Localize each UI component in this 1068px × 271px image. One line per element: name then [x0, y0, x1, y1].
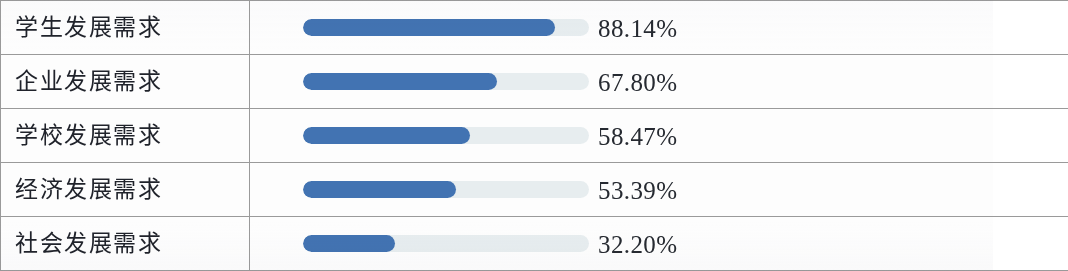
bar-value-label: 88.14% [598, 16, 677, 41]
bar-row: 67.80% [303, 69, 1068, 94]
table-row: 学生发展需求 88.14% [1, 1, 1068, 55]
table-row: 学校发展需求 58.47% [1, 109, 1068, 163]
bar-value-cell: 53.39% [250, 163, 1068, 217]
category-label: 学生发展需求 [15, 15, 243, 40]
bar-track [303, 19, 589, 36]
category-label: 企业发展需求 [15, 69, 243, 94]
table-row: 企业发展需求 67.80% [1, 55, 1068, 109]
bar-value-label: 58.47% [598, 124, 677, 149]
bar-row: 88.14% [303, 15, 1068, 40]
bar-value-label: 67.80% [598, 70, 677, 95]
table-row: 经济发展需求 53.39% [1, 163, 1068, 217]
bar-track [303, 127, 589, 144]
bar-value-label: 32.20% [598, 232, 677, 257]
category-label-cell: 经济发展需求 [1, 163, 250, 217]
bar-value-cell: 32.20% [250, 217, 1068, 271]
bar-row: 32.20% [303, 231, 1068, 256]
bar-value-label: 53.39% [598, 178, 677, 203]
bar-row: 53.39% [303, 177, 1068, 202]
bar-value-cell: 88.14% [250, 1, 1068, 55]
bar-fill [303, 73, 497, 90]
bar-fill [303, 127, 470, 144]
bar-fill [303, 181, 456, 198]
demand-bar-chart-table: 学生发展需求 88.14% 企业发展需求 [0, 0, 1068, 271]
bar-track [303, 235, 589, 252]
bar-value-cell: 58.47% [250, 109, 1068, 163]
table-row: 社会发展需求 32.20% [1, 217, 1068, 271]
category-label-cell: 学校发展需求 [1, 109, 250, 163]
bar-value-cell: 67.80% [250, 55, 1068, 109]
category-label: 学校发展需求 [15, 123, 243, 148]
bar-fill [303, 235, 395, 252]
bar-track [303, 181, 589, 198]
table-body: 学生发展需求 88.14% 企业发展需求 [1, 1, 1068, 271]
category-label-cell: 学生发展需求 [1, 1, 250, 55]
category-label: 经济发展需求 [15, 177, 243, 202]
category-label-cell: 企业发展需求 [1, 55, 250, 109]
bar-fill [303, 19, 555, 36]
category-label-cell: 社会发展需求 [1, 217, 250, 271]
bar-track [303, 73, 589, 90]
category-label: 社会发展需求 [15, 231, 243, 256]
bar-row: 58.47% [303, 123, 1068, 148]
